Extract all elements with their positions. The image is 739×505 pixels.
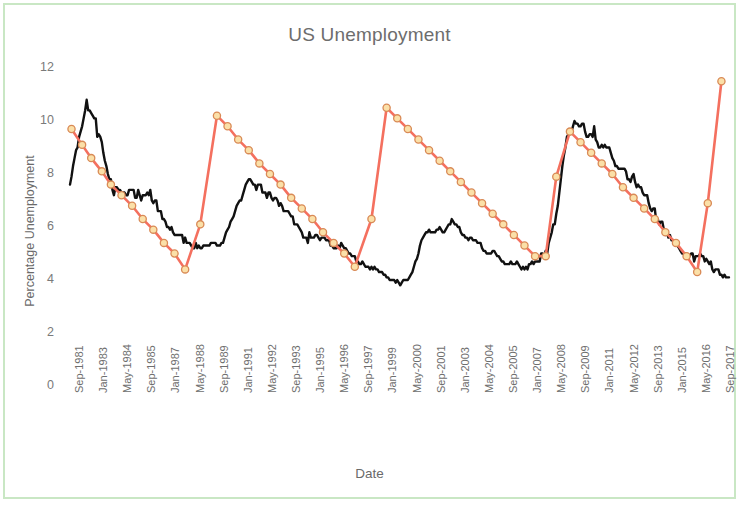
- trend-data-point-marker: [213, 112, 220, 119]
- trend-data-point-marker: [662, 229, 669, 236]
- trend-data-point-marker: [478, 200, 485, 207]
- trend-data-point-marker: [330, 239, 337, 246]
- trend-data-point-marker: [588, 149, 595, 156]
- trend-data-point-marker: [630, 194, 637, 201]
- trend-data-point-marker: [577, 139, 584, 146]
- chart-container: US Unemployment Percentage Unemployment …: [6, 6, 733, 496]
- chart-screenshot: US Unemployment Percentage Unemployment …: [0, 0, 739, 505]
- trend-data-point-marker: [447, 168, 454, 175]
- trend-data-point-marker: [277, 181, 284, 188]
- trend-data-point-marker: [171, 250, 178, 257]
- trend-data-point-marker: [88, 155, 95, 162]
- actual-unemployment-line: [70, 100, 729, 285]
- trend-data-point-marker: [107, 181, 114, 188]
- trend-data-point-marker: [79, 141, 86, 148]
- trend-data-point-marker: [531, 253, 538, 260]
- trend-data-point-marker: [98, 168, 105, 175]
- trend-data-point-marker: [415, 136, 422, 143]
- plot-area: [6, 6, 733, 496]
- trend-data-point-marker: [651, 215, 658, 222]
- trend-data-point-marker: [521, 242, 528, 249]
- trend-data-point-marker: [510, 231, 517, 238]
- trend-data-point-marker: [394, 115, 401, 122]
- trend-data-point-marker: [288, 194, 295, 201]
- trend-data-point-marker: [683, 253, 690, 260]
- trend-data-point-marker: [256, 160, 263, 167]
- trend-data-point-marker: [68, 125, 75, 132]
- trend-data-point-marker: [404, 125, 411, 132]
- trend-data-point-marker: [129, 202, 136, 209]
- trend-data-point-marker: [235, 136, 242, 143]
- trend-data-point-marker: [139, 215, 146, 222]
- trend-data-point-marker: [383, 104, 390, 111]
- trend-data-point-marker: [298, 205, 305, 212]
- trend-data-point-marker: [718, 78, 725, 85]
- trend-data-point-marker: [609, 170, 616, 177]
- trend-data-point-marker: [309, 215, 316, 222]
- trend-data-point-marker: [641, 205, 648, 212]
- trend-data-point-marker: [245, 147, 252, 154]
- trend-data-point-marker: [598, 160, 605, 167]
- trend-data-point-marker: [694, 268, 701, 275]
- trend-data-point-marker: [457, 178, 464, 185]
- trend-data-point-marker: [468, 189, 475, 196]
- series-actual-unemployment: [70, 100, 729, 285]
- trend-data-point-marker: [182, 266, 189, 273]
- trend-data-point-marker: [542, 253, 549, 260]
- trend-data-point-marker: [341, 250, 348, 257]
- trend-data-point-marker: [118, 192, 125, 199]
- trend-data-point-marker: [197, 221, 204, 228]
- trend-data-point-marker: [436, 157, 443, 164]
- trend-data-point-marker: [489, 210, 496, 217]
- trend-data-point-marker: [425, 147, 432, 154]
- trend-data-point-marker: [160, 239, 167, 246]
- trend-data-point-marker: [500, 221, 507, 228]
- series-cycle-trend: [72, 81, 722, 272]
- trend-data-point-marker: [553, 173, 560, 180]
- trend-data-point-marker: [319, 229, 326, 236]
- trend-data-point-marker: [704, 200, 711, 207]
- trend-data-point-marker: [351, 263, 358, 270]
- trend-data-point-marker: [266, 170, 273, 177]
- trend-data-point-marker: [619, 184, 626, 191]
- trend-data-point-marker: [672, 239, 679, 246]
- trend-data-point-marker: [150, 226, 157, 233]
- cycle-trend-line: [72, 81, 722, 272]
- trend-data-point-marker: [368, 215, 375, 222]
- trend-data-point-marker: [224, 123, 231, 130]
- trend-data-point-marker: [566, 128, 573, 135]
